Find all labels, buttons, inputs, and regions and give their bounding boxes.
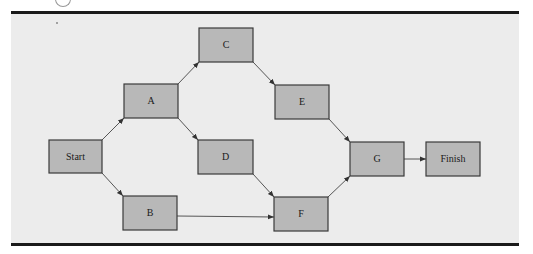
node-d: D [198,140,253,174]
node-label: C [223,39,230,50]
edge-start-to-a [102,118,124,140]
node-e: E [275,85,329,119]
edge-start-to-b [102,173,123,196]
edge-a-to-c [178,62,199,84]
node-label: A [147,95,155,106]
edge-a-to-d [178,118,198,140]
node-label: B [147,207,154,218]
edge-f-to-g [328,176,350,197]
node-finish: Finish [426,142,480,176]
node-label: E [299,96,305,107]
node-label: Start [66,151,85,162]
node-f: F [274,197,328,231]
edge-e-to-g [329,119,350,142]
node-b: B [123,196,177,230]
node-g: G [350,142,404,176]
node-label: Finish [440,153,465,164]
edge-c-to-e [253,62,275,85]
node-c: C [199,28,253,62]
node-a: A [124,84,178,118]
node-label: F [298,208,304,219]
node-label: G [373,153,380,164]
network-diagram: StartABCDEFGFinish [0,0,533,254]
edge-d-to-f [253,174,274,197]
node-start: Start [49,140,102,173]
edge-b-to-f [177,216,274,217]
node-label: D [222,151,229,162]
